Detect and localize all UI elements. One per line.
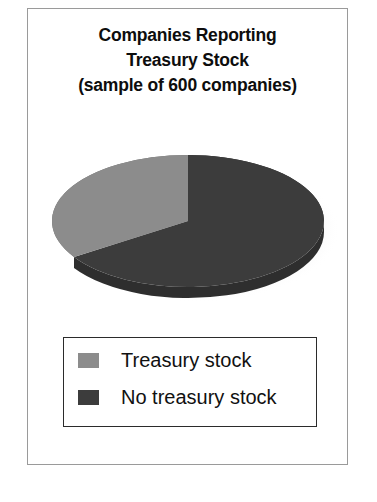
pie-chart: [28, 135, 349, 315]
legend-label-no-treasury-stock: No treasury stock: [121, 386, 277, 408]
chart-title-line-1: Companies Reporting: [28, 23, 347, 48]
legend-swatch-icon-treasury-stock: [78, 353, 99, 368]
chart-title-line-2: Treasury Stock: [28, 48, 347, 73]
chart-legend: Treasury stock No treasury stock: [63, 337, 317, 427]
legend-label-treasury-stock: Treasury stock: [121, 349, 251, 371]
figure-frame: Companies Reporting Treasury Stock (samp…: [27, 8, 348, 465]
legend-item-no-treasury-stock[interactable]: No treasury stock: [78, 386, 277, 408]
chart-title-line-3: (sample of 600 companies): [28, 73, 347, 98]
pie-chart-svg: [28, 135, 349, 315]
legend-item-treasury-stock[interactable]: Treasury stock: [78, 349, 251, 371]
chart-title: Companies Reporting Treasury Stock (samp…: [28, 23, 347, 98]
legend-swatch-icon-no-treasury-stock: [78, 390, 99, 405]
